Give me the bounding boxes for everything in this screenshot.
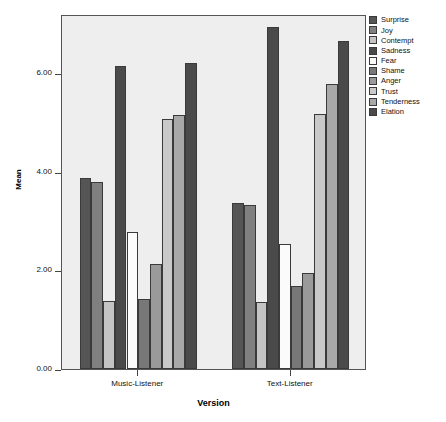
y-tick-label: 0.00 <box>36 364 52 373</box>
bar <box>244 205 256 369</box>
legend-label: Trust <box>381 88 398 96</box>
y-axis-ticks: 0.002.004.006.00 <box>0 15 61 370</box>
bar-chart: Mean 0.002.004.006.00 Music-ListenerText… <box>0 0 446 422</box>
bar <box>291 286 303 369</box>
bar <box>80 178 92 369</box>
legend-item: Tenderness <box>369 97 445 107</box>
bar <box>150 264 162 369</box>
legend: SurpriseJoyContemptSadnessFearShameAnger… <box>369 15 445 117</box>
legend-label: Joy <box>381 27 393 35</box>
x-tick-label: Text-Listener <box>267 379 313 388</box>
legend-label: Tenderness <box>381 98 420 106</box>
x-tick-label: Music-Listener <box>111 379 163 388</box>
legend-label: Surprise <box>381 16 409 24</box>
legend-swatch <box>369 87 377 95</box>
legend-swatch <box>369 77 377 85</box>
x-axis-label: Version <box>61 398 366 408</box>
bar <box>256 302 268 369</box>
x-axis-ticks: Music-ListenerText-Listener <box>61 370 366 400</box>
bar <box>91 182 103 369</box>
legend-swatch <box>369 47 377 55</box>
legend-swatch <box>369 26 377 34</box>
legend-item: Surprise <box>369 15 445 25</box>
legend-item: Sadness <box>369 46 445 56</box>
bar <box>326 84 338 369</box>
legend-label: Fear <box>381 57 396 65</box>
legend-item: Joy <box>369 25 445 35</box>
legend-item: Contempt <box>369 35 445 45</box>
plot-area <box>61 15 366 370</box>
y-axis-tick: 2.00 <box>1 271 61 272</box>
legend-label: Contempt <box>381 37 414 45</box>
bar <box>279 244 291 369</box>
bar <box>302 273 314 369</box>
bars-layer <box>62 16 365 369</box>
legend-item: Shame <box>369 66 445 76</box>
legend-item: Anger <box>369 76 445 86</box>
y-tick-label: 2.00 <box>36 265 52 274</box>
legend-item: Trust <box>369 86 445 96</box>
bar <box>314 114 326 369</box>
y-axis-tick: 6.00 <box>1 74 61 75</box>
legend-swatch <box>369 57 377 65</box>
bar <box>138 299 150 369</box>
bar <box>127 232 139 369</box>
y-axis-tick: 4.00 <box>1 173 61 174</box>
bar <box>173 115 185 369</box>
bar <box>338 41 350 369</box>
legend-item: Elation <box>369 107 445 117</box>
bar <box>115 66 127 369</box>
x-tick-mark <box>137 370 138 376</box>
legend-label: Elation <box>381 108 404 116</box>
y-axis-tick: 0.00 <box>1 370 61 371</box>
legend-label: Anger <box>381 77 401 85</box>
y-tick-label: 4.00 <box>36 167 52 176</box>
bar <box>103 301 115 369</box>
legend-swatch <box>369 36 377 44</box>
x-tick-mark <box>290 370 291 376</box>
bar <box>185 63 197 369</box>
bar <box>267 27 279 369</box>
bar <box>162 119 174 369</box>
legend-swatch <box>369 67 377 75</box>
legend-swatch <box>369 98 377 106</box>
y-tick-label: 6.00 <box>36 68 52 77</box>
legend-swatch <box>369 16 377 24</box>
bar <box>232 203 244 369</box>
legend-label: Shame <box>381 67 405 75</box>
legend-swatch <box>369 108 377 116</box>
legend-label: Sadness <box>381 47 410 55</box>
legend-item: Fear <box>369 56 445 66</box>
